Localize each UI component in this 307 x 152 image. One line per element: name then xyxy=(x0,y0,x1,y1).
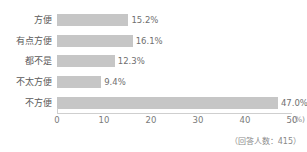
x-axis-unit-label: (%) xyxy=(292,116,305,124)
x-axis-start-cap xyxy=(57,108,58,113)
table-row: 都不是 12.3% xyxy=(57,51,292,72)
table-row: 有点方便 16.1% xyxy=(57,31,292,52)
x-axis-tick: 10 xyxy=(99,116,110,125)
x-axis-line xyxy=(57,113,292,114)
bar-chart: 方便 15.2% 有点方便 16.1% 都不是 12.3% 不太方便 xyxy=(0,0,307,152)
bar-value-label: 9.4% xyxy=(104,78,126,87)
bar-value-label: 15.2% xyxy=(131,16,158,25)
category-label: 不太方便 xyxy=(16,78,52,87)
respondent-count-annotation: （回答人数：415） xyxy=(230,138,301,146)
bar-rows: 方便 15.2% 有点方便 16.1% 都不是 12.3% 不太方便 xyxy=(57,10,292,113)
x-axis-tick: 0 xyxy=(54,116,59,125)
bar-value-label: 16.1% xyxy=(136,37,163,46)
table-row: 不方便 47.0% xyxy=(57,92,292,113)
x-axis-tick: 30 xyxy=(193,116,204,125)
bar: 12.3% xyxy=(57,55,115,67)
x-axis-tick: 40 xyxy=(240,116,251,125)
bar: 9.4% xyxy=(57,76,101,88)
bar: 47.0% xyxy=(57,97,278,109)
table-row: 方便 15.2% xyxy=(57,10,292,31)
x-axis-tick-labels: 01020304050 xyxy=(57,116,292,130)
bar: 15.2% xyxy=(57,14,128,26)
category-label: 有点方便 xyxy=(16,36,52,45)
category-label: 不方便 xyxy=(25,98,52,107)
plot-area: 方便 15.2% 有点方便 16.1% 都不是 12.3% 不太方便 xyxy=(57,10,292,113)
bar-value-label: 12.3% xyxy=(118,57,145,66)
category-label: 都不是 xyxy=(25,57,52,66)
x-axis-tick: 20 xyxy=(146,116,157,125)
bar: 16.1% xyxy=(57,35,133,47)
category-label: 方便 xyxy=(34,16,52,25)
bar-value-label: 47.0% xyxy=(281,98,307,107)
table-row: 不太方便 9.4% xyxy=(57,72,292,93)
